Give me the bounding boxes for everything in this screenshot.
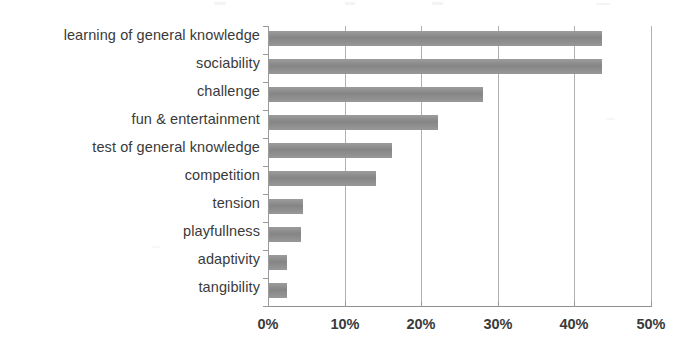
bar-competition	[269, 171, 376, 186]
bar-row	[269, 59, 602, 74]
category-label: tangibility	[0, 279, 260, 295]
category-label: competition	[0, 167, 260, 183]
bar-sociability	[269, 59, 602, 74]
value-tick-label: 50%	[636, 315, 665, 333]
gridline-50	[651, 26, 652, 307]
scan-artifact	[432, 2, 443, 5]
bar-chart-figure: learning of general knowledge sociabilit…	[0, 0, 689, 358]
plot-area	[268, 26, 651, 307]
bar-row	[269, 143, 392, 158]
value-tick	[345, 301, 346, 307]
value-tick-label: 40%	[559, 315, 588, 333]
bar-tension	[269, 199, 303, 214]
value-tick	[574, 301, 575, 307]
category-axis: learning of general knowledge sociabilit…	[0, 26, 260, 307]
value-axis-baseline	[268, 306, 652, 307]
value-tick-label: 20%	[406, 315, 435, 333]
value-tick	[268, 301, 269, 307]
value-tick	[498, 301, 499, 307]
category-label: adaptivity	[0, 251, 260, 267]
bar-row	[269, 255, 287, 270]
bar-fun-and-entertainment	[269, 115, 438, 130]
value-tick	[421, 301, 422, 307]
bar-row	[269, 199, 303, 214]
bar-test-of-general-knowledge	[269, 143, 392, 158]
bar-row	[269, 171, 376, 186]
value-tick-label: 30%	[483, 315, 512, 333]
bar-adaptivity	[269, 255, 287, 270]
bar-row	[269, 115, 438, 130]
scan-artifact	[345, 2, 355, 5]
scan-artifact	[214, 2, 226, 5]
value-tick-label: 0%	[258, 315, 279, 333]
bar-tangibility	[269, 283, 287, 298]
value-tick	[651, 301, 652, 307]
value-tick-label: 10%	[330, 315, 359, 333]
category-label: challenge	[0, 83, 260, 99]
value-axis-labels: 0% 10% 20% 30% 40% 50%	[0, 315, 689, 339]
bar-playfullness	[269, 227, 301, 242]
category-label: fun & entertainment	[0, 111, 260, 127]
category-label: learning of general knowledge	[0, 27, 260, 43]
bar-row	[269, 227, 301, 242]
category-label: tension	[0, 195, 260, 211]
bar-challenge	[269, 87, 483, 102]
scan-artifact	[596, 3, 610, 5]
category-label: playfullness	[0, 223, 260, 239]
bar-row	[269, 31, 602, 46]
category-label: sociability	[0, 55, 260, 71]
bar-row	[269, 87, 483, 102]
category-label: test of general knowledge	[0, 139, 260, 155]
bar-learning-of-general-knowledge	[269, 31, 602, 46]
bar-row	[269, 283, 287, 298]
